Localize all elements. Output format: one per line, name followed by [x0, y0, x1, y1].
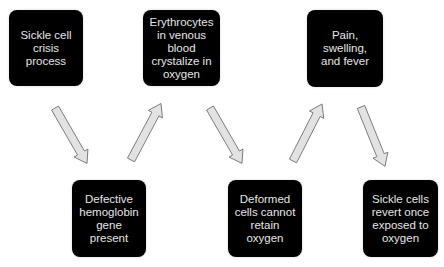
node-sickle-cells-revert: Sickle cells revert once exposed to oxyg… [363, 180, 438, 257]
node-label: Deformed cells cannot retain oxygen [235, 193, 296, 245]
arrow-down-right-icon [203, 104, 249, 167]
node-sickle-cell-crisis-process: Sickle cell crisis process [9, 10, 83, 86]
node-deformed-cells-cannot-retain-oxygen: Deformed cells cannot retain oxygen [228, 180, 302, 257]
node-label: Sickle cell crisis process [20, 29, 71, 68]
node-label: Defective hemoglobin gene present [76, 193, 142, 245]
arrow-down-right-icon [48, 104, 94, 167]
node-label: Erythrocytes in venous blood crystalize … [150, 16, 214, 81]
node-label: Sickle cells revert once exposed to oxyg… [372, 193, 430, 245]
node-label: Pain, swelling, and fever [321, 29, 369, 68]
node-pain-swelling-fever: Pain, swelling, and fever [307, 10, 383, 87]
node-erythrocytes-crystalize: Erythrocytes in venous blood crystalize … [143, 10, 220, 86]
arrow-down-right-icon [354, 104, 393, 169]
arrow-up-right-icon [124, 100, 168, 164]
arrow-up-right-icon [286, 100, 329, 164]
node-defective-hemoglobin-gene: Defective hemoglobin gene present [72, 180, 146, 257]
